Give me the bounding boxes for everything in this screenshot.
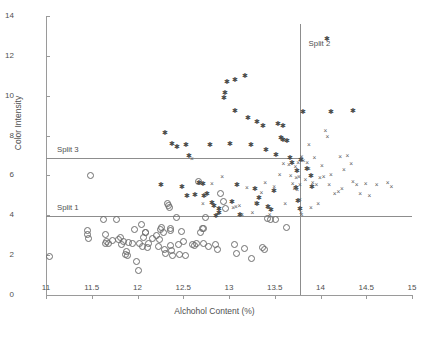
data-point-circle-open: [180, 238, 187, 245]
data-point-x: ×: [374, 182, 379, 187]
data-point-x: ×: [354, 182, 359, 187]
data-point-circle-open: [195, 178, 202, 185]
data-point-asterisk: ✱: [256, 196, 260, 200]
data-point-asterisk: ✱: [280, 124, 284, 128]
data-point-circle-open: [158, 224, 165, 231]
data-point-circle-open: [118, 241, 125, 248]
y-tick: [46, 136, 50, 137]
data-point-circle-open: [142, 229, 149, 236]
data-point-x: ×: [389, 184, 394, 189]
data-point-circle-open: [248, 255, 255, 262]
data-point-circle-open: [103, 238, 110, 245]
data-point-x: ×: [349, 161, 354, 166]
data-point-x: ×: [210, 181, 215, 186]
x-tick-label: 15: [392, 284, 429, 292]
data-point-x: ×: [345, 153, 350, 158]
data-point-circle-open: [217, 190, 224, 197]
data-point-asterisk: ✱: [328, 110, 332, 114]
data-point-circle-open: [165, 202, 172, 209]
data-point-circle-open: [161, 246, 168, 253]
data-point-x: ×: [358, 191, 363, 196]
data-point-asterisk: ✱: [196, 181, 200, 185]
data-point-circle-open: [131, 226, 138, 233]
data-point-x: ×: [307, 142, 312, 147]
data-point-x: ×: [253, 200, 258, 205]
y-tick-label: 10: [0, 92, 14, 100]
data-point-asterisk: ✱: [295, 199, 299, 203]
split-label: Split 1: [57, 204, 79, 212]
x-tick-label: 14.5: [346, 284, 386, 292]
data-point-circle-open: [166, 204, 173, 211]
data-point-circle-open: [125, 239, 132, 246]
data-point-circle-open: [115, 236, 122, 243]
data-point-asterisk: ✱: [227, 142, 231, 146]
data-point-x: ×: [310, 180, 315, 185]
data-point-asterisk: ✱: [192, 193, 196, 197]
y-axis-label: Color Intensity: [13, 53, 23, 193]
data-point-x: ×: [244, 185, 249, 190]
data-point-asterisk: ✱: [224, 80, 228, 84]
data-point-circle-open: [144, 244, 151, 251]
data-point-circle-open: [133, 258, 140, 265]
data-point-circle-open: [167, 227, 174, 234]
data-point-circle-open: [283, 224, 290, 231]
data-point-x: ×: [277, 172, 282, 177]
data-point-x: ×: [325, 134, 330, 139]
data-point-circle-open: [214, 246, 221, 253]
data-point-x: ×: [265, 205, 270, 210]
data-point-asterisk: ✱: [273, 153, 277, 157]
data-point-x: ×: [305, 160, 310, 165]
y-axis-line: [46, 16, 47, 295]
data-point-circle-open: [162, 250, 169, 257]
x-tick: [412, 295, 413, 299]
data-point-asterisk: ✱: [309, 185, 313, 189]
data-point-x: ×: [338, 154, 343, 159]
data-point-asterisk: ✱: [275, 122, 279, 126]
data-point-circle-open: [142, 229, 149, 236]
data-point-asterisk: ✱: [216, 207, 220, 211]
data-point-circle-open: [139, 243, 146, 250]
data-point-x: ×: [272, 184, 277, 189]
x-tick: [183, 295, 184, 299]
data-point-asterisk: ✱: [209, 201, 213, 205]
data-point-asterisk: ✱: [242, 74, 246, 78]
y-tick-label: 6: [0, 171, 14, 179]
x-tick: [275, 295, 276, 299]
y-tick: [46, 56, 50, 57]
data-point-circle-open: [109, 237, 116, 244]
data-point-x: ×: [314, 182, 319, 187]
data-point-x: ×: [292, 186, 297, 191]
data-point-asterisk: ✱: [252, 187, 256, 191]
data-point-circle-open: [105, 240, 112, 247]
y-tick-label: 2: [0, 251, 14, 259]
data-point-x: ×: [316, 201, 321, 206]
data-point-x: ×: [288, 173, 293, 178]
data-point-circle-open: [156, 236, 163, 243]
x-tick: [138, 295, 139, 299]
data-point-asterisk: ✱: [232, 109, 236, 113]
data-point-circle-open: [84, 231, 91, 238]
data-point-circle-open: [149, 235, 156, 242]
data-point-x: ×: [220, 174, 225, 179]
y-tick-label: 8: [0, 132, 14, 140]
x-tick-label: 12: [118, 284, 158, 292]
data-point-circle-open: [199, 225, 206, 232]
data-point-circle-open: [167, 242, 174, 249]
data-point-asterisk: ✱: [158, 183, 162, 187]
data-point-x: ×: [321, 174, 326, 179]
data-point-asterisk: ✱: [229, 200, 233, 204]
data-point-circle-open: [169, 252, 176, 259]
data-point-asterisk: ✱: [254, 120, 258, 124]
data-point-x: ×: [336, 189, 341, 194]
data-point-circle-open: [102, 240, 109, 247]
x-tick: [46, 295, 47, 299]
x-tick: [92, 295, 93, 299]
data-point-asterisk: ✱: [263, 148, 267, 152]
data-point-x: ×: [237, 203, 242, 208]
data-point-asterisk: ✱: [284, 139, 288, 143]
data-point-x: ×: [318, 175, 323, 180]
data-point-asterisk: ✱: [200, 182, 204, 186]
data-point-asterisk: ✱: [179, 185, 183, 189]
data-point-asterisk: ✱: [169, 142, 173, 146]
data-point-asterisk: ✱: [280, 138, 284, 142]
